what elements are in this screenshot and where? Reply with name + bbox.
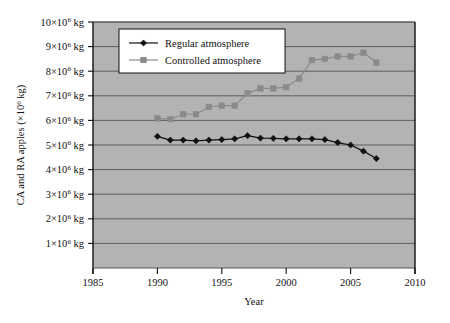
x-axis-ticks — [93, 268, 415, 274]
y-tick-label: 8×106 kg — [46, 65, 85, 77]
y-axis-title: CA and RA apples (×106 kg) — [15, 84, 28, 205]
data-point — [168, 116, 174, 122]
data-point — [361, 50, 367, 56]
y-tick-label: 3×106 kg — [46, 188, 85, 200]
y-tick-label: 10×106 kg — [40, 16, 84, 28]
y-tick-label: 5×106 kg — [46, 139, 85, 151]
legend-label: Regular atmosphere — [165, 38, 250, 49]
y-tick-label: 9×106 kg — [46, 41, 85, 53]
chart-figure: 1×106 kg2×106 kg3×106 kg4×106 kg5×106 kg… — [0, 0, 450, 323]
y-tick-label: 1×106 kg — [46, 238, 85, 250]
data-point — [335, 54, 341, 60]
x-tick-label: 1990 — [147, 277, 168, 288]
data-point — [232, 103, 238, 109]
data-point — [219, 103, 225, 109]
x-tick-label: 1995 — [211, 277, 232, 288]
data-point — [296, 76, 302, 82]
data-point — [271, 86, 277, 92]
data-point — [283, 84, 289, 90]
y-tick-label: 4×106 kg — [46, 164, 85, 176]
y-tick-label: 7×106 kg — [46, 90, 85, 102]
data-point — [322, 56, 328, 62]
data-point — [374, 60, 380, 66]
y-tick-label: 6×106 kg — [46, 115, 85, 127]
chart-legend: Regular atmosphereControlled atmosphere — [119, 29, 285, 73]
data-point — [309, 57, 315, 63]
y-tick-label: 2×106 kg — [46, 213, 85, 225]
x-tick-label: 2010 — [405, 277, 426, 288]
data-point — [193, 111, 199, 117]
x-tick-label: 1985 — [83, 277, 104, 288]
legend-box — [119, 29, 285, 73]
x-axis-tick-labels: 198519901995200020052010 — [83, 277, 426, 288]
y-axis-ticks — [88, 22, 93, 243]
data-point — [258, 86, 264, 92]
data-point — [155, 116, 161, 122]
x-tick-label: 2005 — [340, 277, 361, 288]
data-point — [348, 54, 354, 60]
legend-marker-square — [141, 57, 147, 63]
legend-label: Controlled atmosphere — [165, 55, 261, 66]
x-axis-title: Year — [244, 296, 264, 307]
x-tick-label: 2000 — [276, 277, 297, 288]
line-chart: 1×106 kg2×106 kg3×106 kg4×106 kg5×106 kg… — [0, 0, 450, 323]
data-point — [180, 111, 186, 117]
data-point — [206, 104, 212, 110]
y-axis-tick-labels: 1×106 kg2×106 kg3×106 kg4×106 kg5×106 kg… — [40, 16, 84, 249]
data-point — [245, 91, 251, 97]
